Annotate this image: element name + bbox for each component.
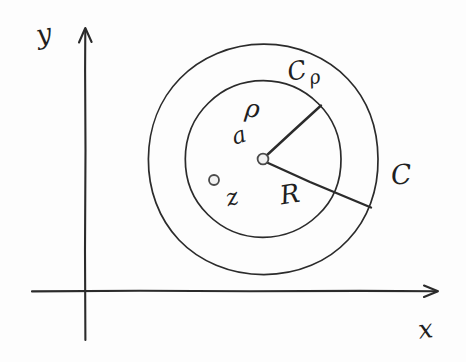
outer-contour-label: C	[390, 160, 413, 189]
x-axis-label: x	[416, 315, 434, 343]
x-axis-line	[32, 291, 437, 292]
interior-point-marker	[209, 175, 219, 185]
inner-radius-segment	[266, 106, 321, 157]
figure-root: y x C Cρ ρ a z R	[0, 0, 466, 362]
center-point-marker	[258, 154, 269, 165]
y-axis-line	[85, 29, 86, 340]
points-group	[209, 154, 268, 185]
inner-radius-label: ρ	[244, 95, 261, 121]
outer-radius-label: R	[278, 180, 301, 209]
